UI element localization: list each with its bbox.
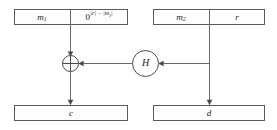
edge-r-to-d — [207, 25, 213, 106]
xor-gate — [63, 56, 79, 72]
diagram-canvas: m1 0|c| − |m1| m2 r — [0, 0, 277, 130]
edge-r-to-hash — [158, 61, 209, 67]
label-r: r — [235, 12, 239, 22]
edge-r-to-hash-arrowhead — [158, 61, 163, 67]
label-d: d — [207, 108, 212, 118]
edge-hash-to-xor-arrowhead — [78, 61, 83, 67]
edge-xor-to-c-arrowhead — [68, 100, 74, 105]
edge-xor-to-c — [68, 72, 74, 106]
cryptographic-construction-diagram: m1 0|c| − |m1| m2 r — [0, 0, 277, 130]
edge-m1-pad-to-xor — [68, 25, 74, 57]
message-one-padded-box: m1 0|c| − |m1| — [15, 10, 128, 25]
hash-function-node: H — [133, 51, 159, 77]
label-c: c — [69, 108, 73, 118]
hash-function-label: H — [141, 57, 150, 68]
ciphertext-c-box: c — [15, 106, 128, 121]
ciphertext-d-box: d — [154, 106, 265, 121]
edge-hash-to-xor — [78, 61, 132, 67]
edge-r-to-d-arrowhead — [207, 100, 213, 105]
message-two-random-box: m2 r — [154, 10, 265, 25]
